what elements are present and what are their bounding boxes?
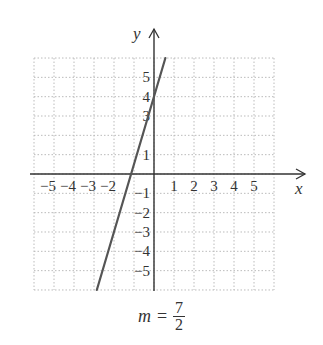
equals-sign: = (157, 306, 167, 327)
slope-numerator: 7 (173, 300, 185, 317)
x-tick-label: 3 (210, 178, 218, 194)
y-tick-label: −4 (134, 243, 150, 259)
x-tick-label: −5 (40, 178, 56, 194)
coordinate-plane: x y −5−4−3−212345 5431−1−2−3−4−5 (0, 0, 323, 345)
x-tick-label: 5 (250, 178, 258, 194)
y-tick-label: −2 (134, 205, 150, 221)
y-tick-label: −5 (134, 263, 150, 279)
x-tick-label: −3 (80, 178, 96, 194)
y-axis-label: y (131, 24, 141, 43)
x-tick-label: 4 (230, 178, 238, 194)
slope-fraction: 7 2 (173, 300, 185, 333)
slope-denominator: 2 (175, 317, 183, 333)
x-tick-label: 2 (190, 178, 198, 194)
x-tick-label: 1 (170, 178, 178, 194)
y-tick-label: 1 (143, 147, 151, 163)
x-tick-label: −2 (100, 178, 116, 194)
slope-caption: m = 7 2 (0, 300, 323, 333)
y-tick-label: −3 (134, 224, 150, 240)
x-tick-label: −4 (60, 178, 76, 194)
slope-variable: m (138, 306, 151, 327)
x-axis-label: x (294, 179, 303, 198)
y-tick-label: 5 (143, 69, 151, 85)
y-tick-label: 4 (143, 89, 151, 105)
y-tick-label: −1 (134, 185, 150, 201)
